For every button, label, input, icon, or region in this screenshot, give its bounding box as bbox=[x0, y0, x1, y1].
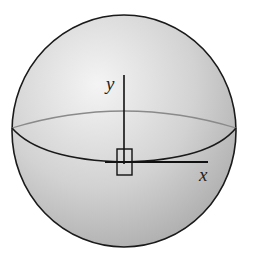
sphere-diagram: y x bbox=[0, 0, 256, 259]
x-axis-label: x bbox=[198, 164, 208, 185]
sphere-svg: y x bbox=[0, 0, 256, 259]
y-axis-label: y bbox=[104, 73, 115, 94]
